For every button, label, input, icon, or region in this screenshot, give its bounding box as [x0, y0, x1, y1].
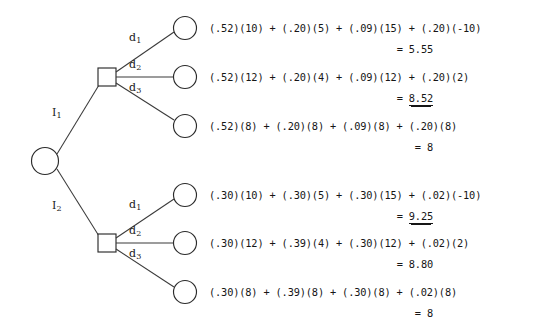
- root-chance-node: [32, 148, 59, 175]
- branch-I1: [57, 85, 99, 154]
- payoff-result: = 9.25: [209, 209, 533, 224]
- payoff-expression: (.52)(8) + (.20)(8) + (.09)(8) + (.20)(8…: [209, 119, 533, 133]
- edge-label-lower-d3: d3: [129, 247, 142, 261]
- equals-sign: =: [415, 141, 421, 153]
- branch-I2: [57, 169, 99, 236]
- equals-sign: =: [397, 258, 403, 270]
- edge-label-I1: I1: [52, 106, 62, 120]
- payoff-expression: (.52)(10) + (.20)(5) + (.09)(15) + (.20)…: [209, 21, 533, 35]
- outcome-node-lower-d3: [174, 281, 197, 304]
- payoff-value: 9.25: [409, 209, 433, 224]
- branch-lower-d3: [116, 249, 174, 287]
- payoff-upper-d2: (.52)(12) + (.20)(4) + (.09)(12) + (.20)…: [209, 70, 533, 106]
- outcome-node-upper-d2: [174, 66, 197, 89]
- edge-label-upper-d3: d3: [129, 81, 142, 95]
- payoff-value: 8: [427, 140, 433, 154]
- payoff-result: = 8: [209, 140, 533, 154]
- equals-sign: =: [397, 210, 403, 222]
- edge-label-lower-d2: d2: [129, 224, 142, 238]
- payoff-value: 8: [427, 306, 433, 320]
- edge-label-lower-d1: d1: [129, 198, 142, 212]
- payoff-result: = 8.80: [209, 257, 533, 271]
- payoff-expression: (.52)(12) + (.20)(4) + (.09)(12) + (.20)…: [209, 70, 533, 84]
- outcome-node-lower-d1: [174, 184, 197, 207]
- payoff-upper-d3: (.52)(8) + (.20)(8) + (.09)(8) + (.20)(8…: [209, 119, 533, 154]
- payoff-expression: (.30)(8) + (.39)(8) + (.30)(8) + (.02)(8…: [209, 285, 533, 299]
- branch-lower-d1: [116, 199, 174, 238]
- upper-decision-node: [98, 68, 116, 86]
- outcome-node-upper-d1: [174, 17, 197, 40]
- branch-upper-d1: [116, 32, 174, 72]
- payoff-upper-d1: (.52)(10) + (.20)(5) + (.09)(15) + (.20)…: [209, 21, 533, 56]
- equals-sign: =: [415, 307, 421, 319]
- payoff-result: = 5.55: [209, 42, 533, 56]
- payoff-expression: (.30)(12) + (.39)(4) + (.30)(12) + (.02)…: [209, 236, 533, 250]
- payoff-value: 5.55: [409, 42, 433, 56]
- edge-label-upper-d1: d1: [129, 31, 142, 45]
- payoff-lower-d3: (.30)(8) + (.39)(8) + (.30)(8) + (.02)(8…: [209, 285, 533, 320]
- payoff-value: 8.80: [409, 257, 433, 271]
- payoff-expression: (.30)(10) + (.30)(5) + (.30)(15) + (.02)…: [209, 188, 533, 202]
- edge-label-I2: I2: [52, 199, 62, 213]
- equals-sign: =: [397, 92, 403, 104]
- branch-upper-d3: [116, 83, 174, 120]
- outcome-node-upper-d3: [174, 115, 197, 138]
- payoff-lower-d1: (.30)(10) + (.30)(5) + (.30)(15) + (.02)…: [209, 188, 533, 224]
- payoff-result: = 8.52: [209, 91, 533, 106]
- payoff-result: = 8: [209, 306, 533, 320]
- edge-label-upper-d2: d2: [129, 58, 142, 72]
- payoff-value: 8.52: [409, 91, 433, 106]
- payoff-lower-d2: (.30)(12) + (.39)(4) + (.30)(12) + (.02)…: [209, 236, 533, 271]
- outcome-node-lower-d2: [174, 232, 197, 255]
- equals-sign: =: [397, 43, 403, 55]
- lower-decision-node: [98, 234, 116, 252]
